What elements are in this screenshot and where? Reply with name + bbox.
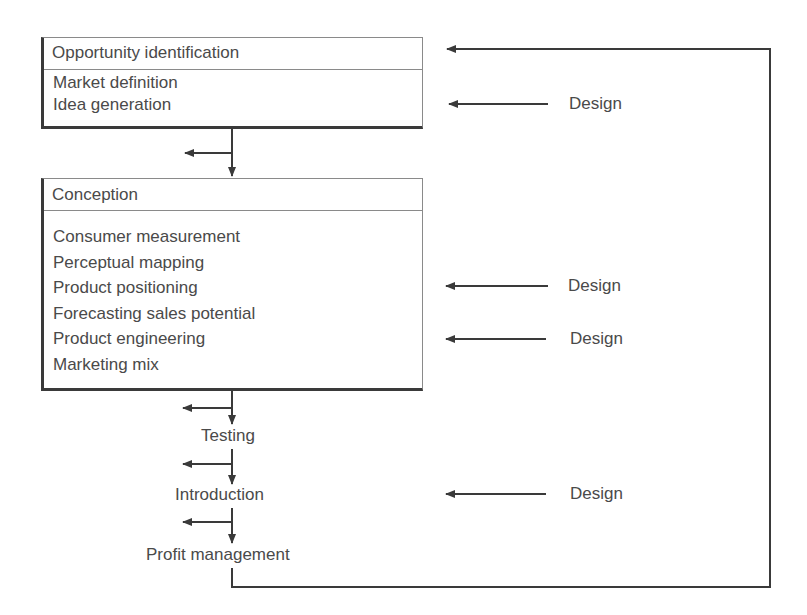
stage-profit-management: Profit management [146,545,290,565]
design-label: Design [570,329,623,349]
stage-item: Idea generation [53,94,178,116]
stage-item: Forecasting sales potential [53,301,255,327]
stage-item: Market definition [53,72,178,94]
stage-title: Conception [44,179,422,211]
design-label: Design [568,276,621,296]
design-label: Design [570,484,623,504]
design-label: Design [569,94,622,114]
stage-conception: Conception Consumer measurement Perceptu… [41,178,423,391]
stage-item: Product engineering [53,326,255,352]
stage-introduction: Introduction [175,485,264,505]
stage-testing: Testing [201,426,255,446]
stage-item: Product positioning [53,275,255,301]
stage-item: Perceptual mapping [53,250,255,276]
stage-item: Marketing mix [53,352,255,378]
stage-item: Consumer measurement [53,224,255,250]
stage-opportunity-identification: Opportunity identification Market defini… [41,37,423,129]
stage-title: Opportunity identification [44,38,422,70]
